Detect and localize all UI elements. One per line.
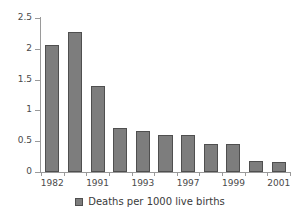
bar xyxy=(68,32,82,172)
y-axis-tick-label: 0 xyxy=(26,167,32,176)
bar xyxy=(158,135,172,172)
y-axis-tick-label: 2.5 xyxy=(18,13,32,22)
y-axis-tick-label: 2 xyxy=(26,44,32,53)
x-axis-tick xyxy=(154,172,155,176)
x-axis-tick xyxy=(290,172,291,176)
plot-area xyxy=(41,18,290,172)
bar xyxy=(136,131,150,172)
bar xyxy=(45,45,59,173)
bar xyxy=(226,144,240,172)
x-axis-tick xyxy=(64,172,65,176)
x-axis-tick xyxy=(199,172,200,176)
x-axis-tick xyxy=(86,172,87,176)
x-axis-tick xyxy=(222,172,223,176)
legend-swatch-icon xyxy=(75,198,83,206)
x-axis-tick xyxy=(245,172,246,176)
y-axis-tick xyxy=(35,80,40,81)
x-axis-line xyxy=(40,172,290,173)
x-axis-tick-label: 2001 xyxy=(267,178,290,188)
x-axis-tick xyxy=(177,172,178,176)
y-axis-tick-label: 1 xyxy=(26,105,32,114)
x-axis-tick xyxy=(109,172,110,176)
x-axis-tick-label: 1991 xyxy=(86,178,109,188)
chart-legend: Deaths per 1000 live births xyxy=(0,196,300,207)
y-axis-tick xyxy=(35,110,40,111)
y-axis-tick xyxy=(35,141,40,142)
legend-item-label: Deaths per 1000 live births xyxy=(88,196,225,207)
x-axis-tick xyxy=(41,172,42,176)
x-axis-tick-label: 1999 xyxy=(222,178,245,188)
bar xyxy=(91,86,105,172)
y-axis-tick xyxy=(35,49,40,50)
bar xyxy=(113,128,127,172)
bar xyxy=(181,135,195,172)
y-axis-tick xyxy=(35,172,40,173)
x-axis-tick xyxy=(267,172,268,176)
x-axis-tick-label: 1993 xyxy=(131,178,154,188)
bar xyxy=(272,162,286,172)
x-axis-tick xyxy=(132,172,133,176)
y-axis-tick xyxy=(35,18,40,19)
bar xyxy=(204,144,218,172)
x-axis-tick-label: 1997 xyxy=(177,178,200,188)
y-axis-tick-label: 0.5 xyxy=(18,136,32,145)
y-axis-tick-label: 1.5 xyxy=(18,75,32,84)
bar-chart: 00.511.522.5 198219911993199719992001 De… xyxy=(0,0,300,217)
x-axis-tick-label: 1982 xyxy=(41,178,64,188)
bar xyxy=(249,161,263,172)
